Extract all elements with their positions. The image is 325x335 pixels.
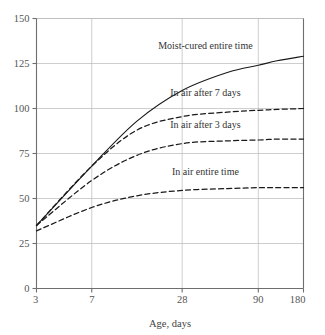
ytick-label-0: 0 — [24, 283, 29, 294]
xtick-label-90: 90 — [253, 294, 264, 305]
ytick-label-150: 150 — [14, 13, 30, 24]
xtick-label-3: 3 — [33, 294, 38, 305]
curve-label-3: In air entire time — [172, 166, 239, 177]
concrete-strength-chart: 0255075100125150 372890180 Moist-cured e… — [0, 0, 325, 335]
curve-label-1: In air after 7 days — [170, 87, 241, 98]
xtick-label-180: 180 — [290, 294, 306, 305]
x-axis-title: Age, days — [149, 318, 191, 329]
ytick-label-125: 125 — [14, 58, 30, 69]
xtick-label-7: 7 — [89, 294, 94, 305]
ytick-label-25: 25 — [19, 238, 30, 249]
ytick-label-75: 75 — [19, 148, 30, 159]
ytick-label-50: 50 — [19, 193, 30, 204]
xtick-label-28: 28 — [177, 294, 188, 305]
ytick-label-100: 100 — [14, 103, 30, 114]
curve-label-2: In air after 3 days — [170, 119, 241, 130]
curve-label-0: Moist-cured entire time — [158, 40, 253, 51]
chart-canvas: 0255075100125150 372890180 Moist-cured e… — [0, 0, 325, 335]
